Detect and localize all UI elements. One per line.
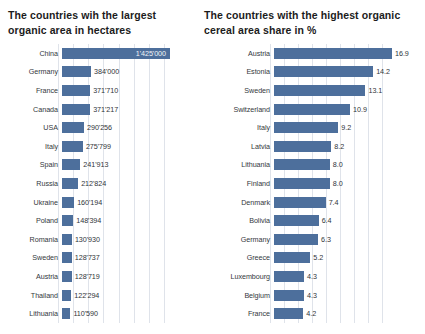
bar-row: France371'710 — [6, 81, 196, 100]
bar[interactable] — [274, 308, 303, 319]
bar[interactable] — [274, 85, 365, 96]
bar-wrap: 128'719 — [62, 267, 100, 286]
bar-zone: 371'710 — [62, 81, 196, 100]
chart-title-right-line1: The countries with the highest organic — [204, 8, 404, 23]
bar-wrap: 4.2 — [274, 304, 316, 323]
bar[interactable] — [274, 215, 319, 226]
plot-area-left: China1'425'000Germany384'000France371'71… — [6, 44, 196, 323]
bar-row: Germany6.3 — [202, 230, 425, 249]
bar[interactable] — [274, 197, 326, 208]
bar-wrap: 4.3 — [274, 286, 317, 305]
bar-row: Russia212'824 — [6, 174, 196, 193]
bar[interactable] — [274, 122, 338, 133]
bar-row: Italy275'799 — [6, 137, 196, 156]
bar-wrap: 148'394 — [62, 211, 101, 230]
bar-zone: 160'194 — [62, 193, 196, 212]
bar-zone: 6.4 — [274, 211, 425, 230]
bar-wrap: 128'737 — [62, 249, 100, 268]
value-label: 128'719 — [72, 272, 100, 281]
bar-zone: 128'719 — [62, 267, 196, 286]
bar[interactable] — [62, 122, 84, 133]
bar-wrap: 9.2 — [274, 118, 351, 137]
value-label: 122'294 — [71, 291, 99, 300]
bar-wrap: 275'799 — [62, 137, 111, 156]
bar-rows-left: China1'425'000Germany384'000France371'71… — [6, 44, 196, 323]
bar[interactable] — [62, 234, 72, 245]
bar-wrap: 6.3 — [274, 230, 331, 249]
category-label: Italy — [6, 142, 62, 151]
bar[interactable] — [62, 178, 78, 189]
bar-row: Italy9.2 — [202, 118, 425, 137]
bar[interactable] — [274, 66, 373, 77]
bar-row: Spain241'913 — [6, 156, 196, 175]
value-label: 160'194 — [74, 198, 102, 207]
bar-row: Sweden128'737 — [6, 249, 196, 268]
category-label: Bolivia — [202, 216, 274, 225]
chart-panel-cereal-share: The countries with the highest organic c… — [196, 0, 425, 334]
bar[interactable] — [62, 104, 90, 115]
bar-zone: 148'394 — [62, 211, 196, 230]
bar[interactable] — [274, 141, 331, 152]
bar-row: China1'425'000 — [6, 44, 196, 63]
bar[interactable] — [274, 178, 330, 189]
category-label: Italy — [202, 123, 274, 132]
bar[interactable] — [274, 234, 318, 245]
bar[interactable] — [62, 197, 74, 208]
bar-wrap: 13.1 — [274, 81, 382, 100]
bar[interactable] — [62, 85, 90, 96]
chart-title-right: The countries with the highest organic c… — [202, 8, 404, 38]
bar-row: Finland8.0 — [202, 174, 425, 193]
bar[interactable] — [62, 290, 71, 301]
bar-zone: 8.0 — [274, 174, 425, 193]
bar-zone: 110'590 — [62, 304, 196, 323]
bar-zone: 371'217 — [62, 100, 196, 119]
value-label: 371'217 — [90, 105, 118, 114]
value-label: 148'394 — [73, 216, 101, 225]
bar[interactable] — [274, 48, 392, 59]
bar[interactable] — [274, 252, 310, 263]
bar[interactable] — [62, 141, 83, 152]
bar[interactable] — [274, 290, 304, 301]
bar[interactable] — [62, 215, 73, 226]
bar[interactable] — [62, 66, 91, 77]
bar[interactable] — [62, 252, 72, 263]
bar-row: France4.2 — [202, 304, 425, 323]
category-label: Finland — [202, 179, 274, 188]
value-label: 10.9 — [350, 105, 367, 114]
bar[interactable] — [274, 159, 330, 170]
bar-wrap: 212'824 — [62, 174, 106, 193]
bar-zone: 122'294 — [62, 286, 196, 305]
category-label: Austria — [6, 272, 62, 281]
bar-wrap: 8.0 — [274, 174, 343, 193]
bar-row: Sweden13.1 — [202, 81, 425, 100]
bar[interactable] — [62, 308, 70, 319]
bar-zone: 290'256 — [62, 118, 196, 137]
category-label: Germany — [6, 67, 62, 76]
bar-row: Thailand122'294 — [6, 286, 196, 305]
category-label: Lithuania — [202, 160, 274, 169]
bar-zone: 4.3 — [274, 267, 425, 286]
bar[interactable] — [274, 271, 304, 282]
bar-row: Poland148'394 — [6, 211, 196, 230]
value-label: 110'590 — [70, 309, 97, 318]
bar[interactable] — [62, 159, 80, 170]
category-label: USA — [6, 123, 62, 132]
category-label: Ukraine — [6, 198, 62, 207]
bar-wrap: 4.3 — [274, 267, 317, 286]
bar-row: Ukraine160'194 — [6, 193, 196, 212]
bar-rows-right: Austria16.9Estonia14.2Sweden13.1Switzerl… — [202, 44, 425, 323]
dual-bar-chart-page: The countries wih the largest organic ar… — [0, 0, 425, 334]
value-label: 6.4 — [319, 216, 332, 225]
bar-row: Romania130'930 — [6, 230, 196, 249]
bar-wrap: 5.2 — [274, 249, 323, 268]
value-label: 241'913 — [80, 160, 108, 169]
chart-title-right-line2: cereal area share in % — [204, 23, 404, 38]
bar-zone: 275'799 — [62, 137, 196, 156]
value-label: 9.2 — [338, 123, 351, 132]
category-label: Luxembourg — [202, 272, 274, 281]
value-label: 7.4 — [326, 198, 339, 207]
chart-title-left-line1: The countries wih the largest — [8, 8, 196, 23]
bar[interactable] — [274, 104, 350, 115]
bar[interactable] — [62, 271, 72, 282]
chart-panel-organic-area: The countries wih the largest organic ar… — [0, 0, 196, 334]
